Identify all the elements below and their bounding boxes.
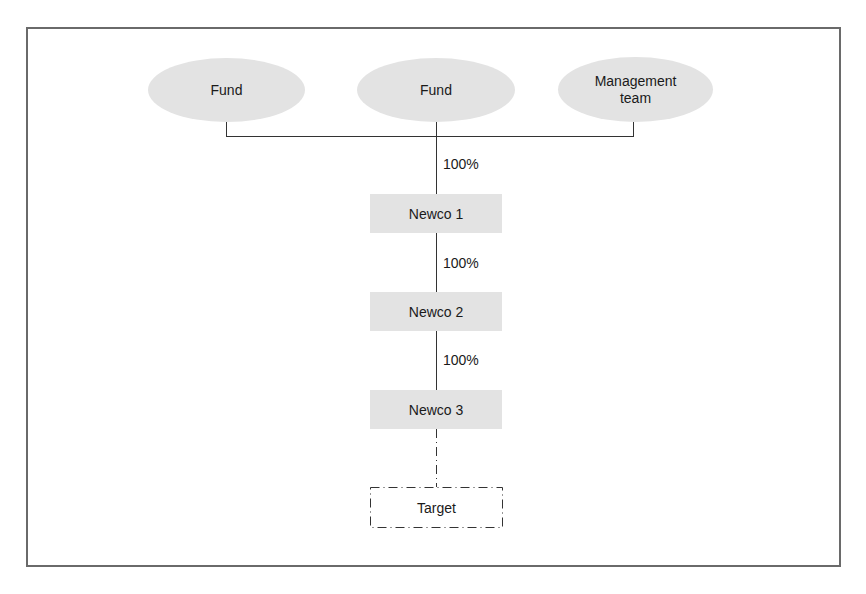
target-entity: Target — [370, 487, 503, 528]
target-label: Target — [417, 500, 456, 516]
